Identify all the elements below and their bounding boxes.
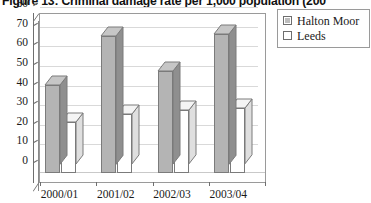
bar-side-face — [189, 101, 196, 173]
chart-legend: Halton Moor Leeds — [277, 9, 370, 48]
plot-area — [39, 13, 266, 183]
legend-swatch-empty-icon — [283, 31, 292, 40]
legend-item-leeds: Leeds — [283, 28, 363, 43]
bar-top-face — [158, 62, 180, 72]
bar-front-face — [45, 85, 60, 173]
plot-floor — [40, 172, 265, 182]
y-axis-tick-label: 50 — [17, 57, 29, 68]
chart-figure: Figure 13: Criminal damage rate per 1,00… — [0, 0, 371, 203]
bar-front-face — [101, 36, 116, 173]
legend-swatch-hatched-icon — [283, 16, 292, 25]
x-axis-tick-label: 2000/01 — [34, 188, 86, 200]
legend-label: Leeds — [297, 29, 326, 43]
legend-label: Halton Moor — [297, 14, 359, 28]
y-axis-tick-label: 80 — [17, 0, 29, 9]
x-axis-tick-mark — [153, 182, 154, 186]
bar-front-face — [214, 34, 229, 173]
bar-side-face — [132, 105, 139, 173]
y-axis-tick-label: 0 — [22, 155, 28, 166]
x-axis-tick-label: 2003/04 — [202, 188, 254, 200]
bar-side-face — [173, 62, 180, 173]
y-axis-tick-label: 40 — [17, 77, 29, 88]
bar-halton-moor-2000-01 — [45, 85, 60, 173]
bar-top-face — [101, 27, 123, 37]
bar-top-face — [214, 25, 236, 35]
y-axis-tick-label: 10 — [17, 135, 29, 146]
legend-item-halton-moor: Halton Moor — [283, 13, 363, 28]
y-axis-spine-back — [33, 13, 34, 183]
gridline — [40, 7, 258, 8]
bar-side-face — [60, 76, 67, 173]
bar-halton-moor-2001-02 — [101, 36, 116, 173]
y-axis-tick-label: 60 — [17, 37, 29, 48]
x-axis-tick-mark — [96, 182, 97, 186]
x-axis: 2000/012001/022002/032003/04 — [0, 186, 300, 203]
bar-side-face — [229, 25, 236, 173]
x-axis-tick-mark — [265, 182, 266, 186]
bar-top-face — [45, 76, 67, 86]
y-axis-tick-label: 20 — [17, 116, 29, 127]
bar-halton-moor-2002-03 — [158, 71, 173, 173]
y-axis-tick-label: 70 — [17, 18, 29, 29]
bar-side-face — [245, 99, 252, 173]
x-axis-tick-label: 2001/02 — [90, 188, 142, 200]
x-axis-tick-label: 2002/03 — [146, 188, 198, 200]
y-axis-tick-label: 30 — [17, 96, 29, 107]
x-axis-tick-mark — [209, 182, 210, 186]
bar-halton-moor-2003-04 — [214, 34, 229, 173]
bar-front-face — [158, 71, 173, 173]
y-axis: 80706050403020100 — [0, 8, 39, 192]
bar-side-face — [116, 27, 123, 173]
x-axis-tick-mark — [40, 182, 41, 186]
